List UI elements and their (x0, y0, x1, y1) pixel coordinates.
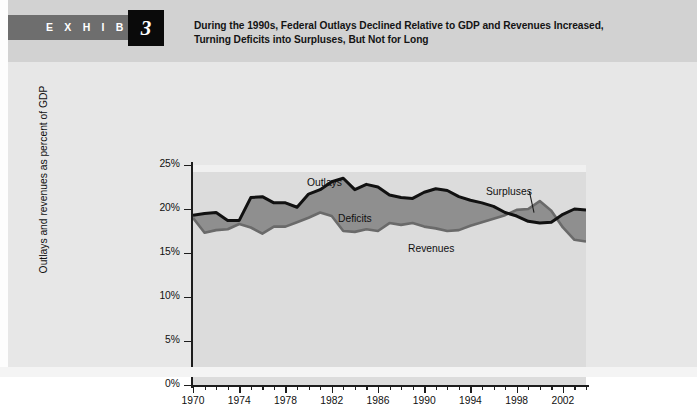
x-axis-tick-minor (551, 386, 552, 390)
x-axis-tick-label: 1978 (263, 395, 307, 406)
x-axis-tick-major (517, 386, 518, 393)
x-axis-tick-major (563, 386, 564, 393)
x-axis-tick-label: 1990 (402, 395, 446, 406)
x-axis-tick-label: 1974 (217, 395, 261, 406)
y-axis-tick (184, 385, 191, 386)
y-axis-tick-label: 5% (122, 334, 180, 345)
x-axis-tick-minor (540, 386, 541, 390)
y-axis-tick-label: 15% (122, 246, 180, 257)
x-axis-tick-major (285, 386, 286, 393)
x-axis-tick-minor (343, 386, 344, 390)
y-axis-tick-label: 10% (122, 290, 180, 301)
chart-series-svg (193, 165, 586, 385)
x-axis-tick-label: 1970 (171, 395, 215, 406)
x-axis-tick-major (378, 386, 379, 393)
x-axis-tick-minor (355, 386, 356, 390)
x-axis-tick-minor (262, 386, 263, 390)
y-axis-tick-label: 0% (122, 378, 180, 389)
annotation-outlays: Outlays (307, 177, 342, 188)
x-axis-tick-minor (228, 386, 229, 390)
x-axis-tick-minor (216, 386, 217, 390)
x-axis-tick-major (424, 386, 425, 393)
x-axis-tick-minor (528, 386, 529, 390)
x-axis-tick-minor (447, 386, 448, 390)
x-axis-tick-minor (320, 386, 321, 390)
y-axis-line (191, 162, 193, 388)
x-axis-tick-minor (366, 386, 367, 390)
x-axis-tick-minor (401, 386, 402, 390)
x-axis-tick-label: 1994 (448, 395, 492, 406)
x-axis-tick-minor (494, 386, 495, 390)
x-axis-tick-minor (309, 386, 310, 390)
x-axis-tick-major (332, 386, 333, 393)
x-axis-tick-label: 2002 (541, 395, 585, 406)
x-axis-tick-minor (586, 386, 587, 390)
x-axis-tick-major (239, 386, 240, 393)
x-axis-tick-minor (574, 386, 575, 390)
y-axis-title: Outlays and revenues as percent of GDP (38, 60, 49, 300)
y-axis-tick (184, 297, 191, 298)
x-axis-tick-label: 1986 (356, 395, 400, 406)
x-axis-tick-minor (482, 386, 483, 390)
x-axis-tick-minor (505, 386, 506, 390)
x-axis-tick-minor (251, 386, 252, 390)
y-axis-tick (184, 253, 191, 254)
y-axis-tick-label: 25% (122, 158, 180, 169)
x-axis-tick-minor (390, 386, 391, 390)
x-axis-tick-minor (205, 386, 206, 390)
annotation-revenues: Revenues (408, 243, 454, 254)
y-axis-tick (184, 209, 191, 210)
paper-left-margin (0, 0, 8, 377)
x-axis-tick-minor (436, 386, 437, 390)
x-axis-tick-minor (459, 386, 460, 390)
chart-region: Outlays and revenues as percent of GDP O… (8, 62, 697, 367)
y-axis-tick (184, 341, 191, 342)
x-axis-tick-major (470, 386, 471, 393)
y-axis-tick-label: 20% (122, 202, 180, 213)
paper-bottom-margin (0, 367, 697, 377)
y-axis-tick (184, 165, 191, 166)
x-axis-tick-minor (297, 386, 298, 390)
x-axis-tick-minor (274, 386, 275, 390)
page-title: During the 1990s, Federal Outlays Declin… (194, 19, 624, 48)
x-axis-tick-label: 1982 (310, 395, 354, 406)
y-axis-tick-labels: 25%20%15%10%5%0% (120, 62, 180, 367)
x-axis-tick-label: 1998 (495, 395, 539, 406)
x-axis-tick-major (193, 386, 194, 393)
annotation-surpluses: Surpluses (486, 186, 532, 197)
x-axis-tick-minor (413, 386, 414, 390)
exhibit-number: 3 (128, 10, 164, 46)
annotation-deficits: Deficits (338, 213, 372, 224)
